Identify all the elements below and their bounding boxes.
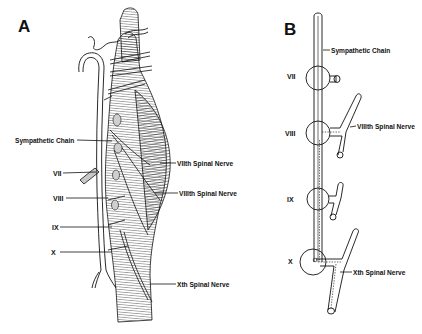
label-b-ix: IX (287, 196, 294, 203)
label-a-viiith-spinal-nerve: VIIIth Spinal Nerve (179, 190, 237, 197)
label-b-x: X (288, 258, 293, 265)
vessel-stub-vii (80, 168, 99, 184)
label-b-viiith-spinal-nerve: VIIIth Spinal Nerve (357, 123, 415, 130)
leader-lines-b (323, 50, 356, 272)
label-a-vii: VII (53, 170, 62, 177)
label-b-viii: VIII (285, 130, 296, 137)
panel-b-schematic (300, 13, 361, 314)
label-a-viii: VIII (53, 195, 64, 202)
panel-b-letter: B (284, 20, 296, 40)
label-a-sympathetic-chain: Sympathetic Chain (15, 137, 74, 144)
label-a-viith-spinal-nerve: VIIth Spinal Nerve (177, 160, 233, 167)
label-a-ix: IX (52, 224, 59, 231)
label-a-x: X (51, 249, 56, 256)
label-a-xth-spinal-nerve: Xth Spinal Nerve (177, 281, 229, 288)
label-b-xth-spinal-nerve: Xth Spinal Nerve (353, 269, 405, 276)
label-b-vii: VII (287, 73, 296, 80)
spinal-column-mass (105, 8, 170, 322)
label-b-sympathetic-chain: Sympathetic Chain (331, 47, 390, 54)
